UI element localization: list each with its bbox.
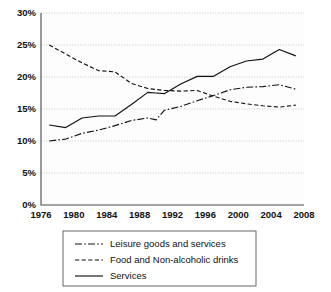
x-tick-label: 2004 (261, 209, 283, 220)
legend-label-1: Food and Non-alcoholic drinks (110, 254, 239, 265)
y-tick-label: 5% (22, 167, 36, 178)
y-tick-label: 10% (17, 135, 37, 146)
legend-item[interactable]: Food and Non-alcoholic drinks (75, 254, 239, 265)
y-tick-label: 30% (17, 7, 37, 18)
x-tick-label: 1992 (162, 209, 183, 220)
legend-label-2: Services (110, 270, 147, 281)
x-tick-label: 2008 (293, 209, 314, 220)
legend-item[interactable]: Services (75, 270, 147, 281)
x-tick-label: 2000 (228, 209, 249, 220)
y-tick-label: 20% (17, 71, 37, 82)
legend-item[interactable]: Leisure goods and services (75, 238, 226, 249)
x-tick-label: 1996 (195, 209, 216, 220)
x-tick-label: 1980 (63, 209, 84, 220)
line-chart-figure: 0%5%10%15%20%25%30% 19761980198419881992… (0, 0, 331, 292)
y-axis-tick-labels: 0%5%10%15%20%25%30% (17, 7, 37, 210)
legend-label-0: Leisure goods and services (110, 238, 226, 249)
x-tick-label: 1988 (129, 209, 150, 220)
chart-legend: Leisure goods and servicesFood and Non-a… (63, 231, 256, 286)
x-tick-label: 1976 (30, 209, 51, 220)
y-tick-label: 25% (17, 39, 37, 50)
chart-canvas: 0%5%10%15%20%25%30% 19761980198419881992… (0, 0, 331, 292)
x-tick-label: 1984 (96, 209, 118, 220)
x-axis-tick-labels: 197619801984198819921996200020042008 (30, 209, 314, 220)
y-tick-label: 15% (17, 103, 37, 114)
